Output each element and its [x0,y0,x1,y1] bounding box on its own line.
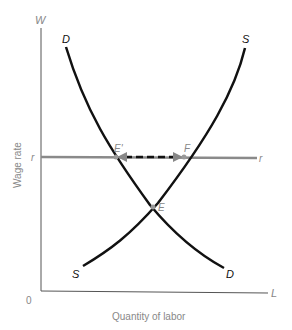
y-axis-symbol: W [35,14,47,26]
rate-label-right: r [259,153,263,164]
point-e-prime [114,155,119,160]
demand-top-label: D [62,33,70,45]
point-e-label: E [158,202,165,213]
rate-label-left: r [31,152,35,163]
x-axis [41,291,268,293]
x-axis-label: Quantity of labor [112,311,186,322]
x-axis-symbol: L [271,287,277,299]
point-e-prime-label: E' [114,143,124,154]
y-axis-label: Wage rate [12,142,23,188]
labor-market-diagram: W L 0 Quantity of labor Wage rate r r D … [0,0,292,330]
supply-bottom-label: S [72,268,80,280]
demand-bottom-label: D [226,268,234,280]
supply-top-label: S [242,33,250,45]
point-f [182,155,187,160]
point-e [151,205,156,210]
point-f-label: F [184,143,191,154]
origin-label: 0 [26,295,32,306]
diagram-canvas: W L 0 Quantity of labor Wage rate r r D … [0,0,292,330]
